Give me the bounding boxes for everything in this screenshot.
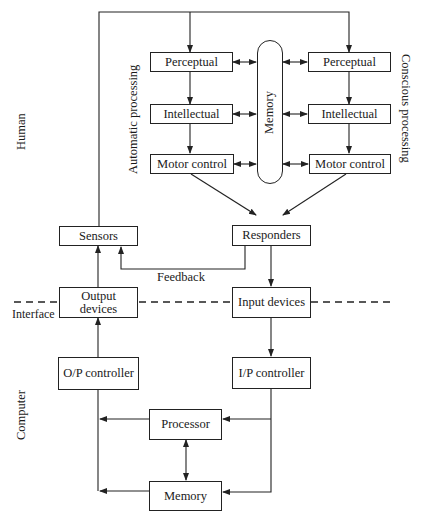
conscious-perceptual-box: Perceptual [308, 52, 391, 72]
conscious-intellectual-box: Intellectual [308, 104, 391, 124]
side-label-automatic-processing: Automatic processing [126, 65, 141, 174]
connector-lines [0, 0, 421, 519]
conscious-motor-control-box: Motor control [309, 154, 391, 174]
output-devices-box: Output devices [59, 287, 138, 318]
zone-label-computer: Computer [14, 390, 29, 440]
auto-motor-control-box: Motor control [150, 154, 234, 174]
sensors-box: Sensors [59, 226, 138, 246]
ip-controller-box: I/P controller [232, 357, 311, 389]
op-controller-box: O/P controller [58, 357, 139, 390]
computer-memory-box: Memory [149, 481, 222, 511]
auto-intellectual-box: Intellectual [150, 104, 233, 124]
input-devices-box: Input devices [232, 287, 311, 318]
human-memory-pill: Memory [257, 40, 283, 184]
feedback-label: Feedback [157, 270, 205, 285]
processor-box: Processor [149, 409, 222, 440]
zone-label-interface: Interface [12, 307, 55, 322]
side-label-conscious-processing: Conscious processing [398, 54, 413, 163]
zone-label-human: Human [14, 113, 29, 150]
auto-perceptual-box: Perceptual [150, 52, 233, 72]
responders-box: Responders [232, 225, 311, 246]
human-memory-label: Memory [263, 90, 278, 133]
